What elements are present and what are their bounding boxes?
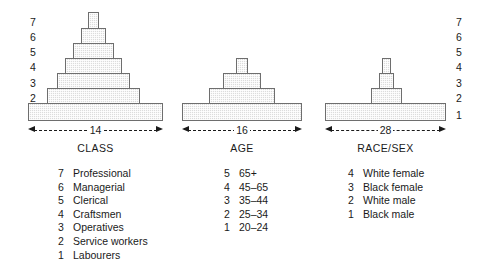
- legend-label-class-5: Clerical: [73, 194, 148, 208]
- y-tick-left-6: 6: [26, 32, 40, 43]
- legend-label-race-2: White male: [363, 194, 424, 208]
- legend-key-race-3: 3: [348, 181, 363, 195]
- bar-race-level-4: [382, 58, 391, 74]
- legend-item-class-4: 4 Craftsmen: [58, 208, 148, 222]
- legend-item-race-3: 3 Black female: [348, 181, 424, 195]
- legend-item-class-3: 3 Operatives: [58, 221, 148, 235]
- legend-item-class-7: 7 Professional: [58, 167, 148, 181]
- legend-item-age-2: 2 25–34: [224, 208, 268, 222]
- measure-value-class: 14: [28, 123, 163, 137]
- legend-class: 7 Professional 6 Managerial 5 Clerical 4…: [58, 167, 148, 262]
- bar-class-level-2: [47, 88, 140, 104]
- legend-age: 5 65+ 4 45–65 3 35–44 2 25–34 1 20–24: [224, 167, 268, 235]
- bar-class-level-6: [81, 28, 106, 44]
- y-tick-right-7: 7: [452, 17, 466, 28]
- legend-item-age-5: 5 65+: [224, 167, 268, 181]
- measure-value-race-sex: 28: [325, 123, 446, 137]
- legend-key-age-2: 2: [224, 208, 239, 222]
- legend-key-age-4: 4: [224, 181, 239, 195]
- legend-label-race-1: Black male: [363, 208, 424, 222]
- bar-class-level-3: [57, 73, 130, 89]
- legend-key-age-3: 3: [224, 194, 239, 208]
- legend-key-age-1: 1: [224, 221, 239, 235]
- legend-item-class-2: 2 Service workers: [58, 235, 148, 249]
- legend-race-sex: 4 White female 3 Black female 2 White ma…: [348, 167, 424, 221]
- legend-key-race-4: 4: [348, 167, 363, 181]
- bar-race-level-3: [379, 73, 394, 89]
- legend-label-age-5: 65+: [239, 167, 268, 181]
- width-measure-race-sex: 28: [325, 124, 446, 138]
- legend-key-class-4: 4: [58, 208, 73, 222]
- legend-key-class-3: 3: [58, 221, 73, 235]
- bar-race-level-1: [325, 103, 446, 121]
- legend-key-class-5: 5: [58, 194, 73, 208]
- legend-label-class-1: Labourers: [73, 249, 148, 263]
- legend-key-class-1: 1: [58, 249, 73, 263]
- legend-item-race-4: 4 White female: [348, 167, 424, 181]
- y-tick-left-4: 4: [26, 62, 40, 73]
- legend-key-race-2: 2: [348, 194, 363, 208]
- bar-age-level-3: [209, 88, 275, 104]
- y-tick-right-4: 4: [452, 62, 466, 73]
- legend-label-class-7: Professional: [73, 167, 148, 181]
- panel-title-age: AGE: [182, 143, 302, 154]
- y-tick-right-5: 5: [452, 47, 466, 58]
- legend-key-class-7: 7: [58, 167, 73, 181]
- legend-key-class-6: 6: [58, 181, 73, 195]
- legend-label-class-6: Managerial: [73, 181, 148, 195]
- y-tick-right-2: 2: [452, 93, 466, 104]
- y-tick-right-6: 6: [452, 32, 466, 43]
- width-measure-class: 14: [28, 124, 163, 138]
- legend-label-class-4: Craftsmen: [73, 208, 148, 222]
- bar-race-level-2: [371, 88, 402, 104]
- bar-class-level-4: [65, 58, 122, 74]
- panel-title-race-sex: RACE/SEX: [325, 143, 446, 154]
- legend-label-class-2: Service workers: [73, 235, 148, 249]
- bar-age-level-4: [223, 73, 261, 89]
- legend-item-age-3: 3 35–44: [224, 194, 268, 208]
- legend-item-age-4: 4 45–65: [224, 181, 268, 195]
- legend-label-age-1: 20–24: [239, 221, 268, 235]
- panel-title-class: CLASS: [28, 143, 163, 154]
- y-tick-left-3: 3: [26, 78, 40, 89]
- legend-item-class-5: 5 Clerical: [58, 194, 148, 208]
- legend-label-race-4: White female: [363, 167, 424, 181]
- y-tick-right-3: 3: [452, 78, 466, 89]
- width-measure-age: 16: [182, 124, 302, 138]
- legend-label-age-4: 45–65: [239, 181, 268, 195]
- bar-class-level-1: [28, 103, 163, 121]
- bar-age-level-1: [182, 103, 302, 121]
- legend-key-race-1: 1: [348, 208, 363, 222]
- legend-item-race-1: 1 Black male: [348, 208, 424, 222]
- pyramid-chart-figure: 7 6 5 4 3 2 1 7 6 5 4 3 2 1 14 CLASS: [0, 0, 480, 271]
- legend-label-class-3: Operatives: [73, 221, 148, 235]
- legend-item-age-1: 1 20–24: [224, 221, 268, 235]
- legend-item-class-1: 1 Labourers: [58, 249, 148, 263]
- y-tick-right-1: 1: [452, 110, 466, 121]
- legend-item-race-2: 2 White male: [348, 194, 424, 208]
- bar-age-level-5: [236, 58, 248, 74]
- bar-class-level-5: [73, 43, 114, 59]
- legend-label-age-3: 35–44: [239, 194, 268, 208]
- y-tick-left-7: 7: [26, 17, 40, 28]
- legend-key-age-5: 5: [224, 167, 239, 181]
- legend-key-class-2: 2: [58, 235, 73, 249]
- legend-label-age-2: 25–34: [239, 208, 268, 222]
- y-tick-left-5: 5: [26, 47, 40, 58]
- legend-label-race-3: Black female: [363, 181, 424, 195]
- bar-class-level-7: [88, 12, 99, 29]
- measure-value-age: 16: [182, 123, 302, 137]
- y-tick-left-2: 2: [26, 93, 40, 104]
- legend-item-class-6: 6 Managerial: [58, 181, 148, 195]
